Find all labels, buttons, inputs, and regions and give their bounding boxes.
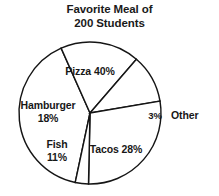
slice-label-hamburger: Hamburger 18%: [4, 99, 92, 124]
slice-label-fish: Fish 11%: [35, 138, 79, 163]
slice-label-hamburger-percent: 18%: [4, 112, 92, 125]
slice-label-pizza: Pizza 40%: [0, 65, 180, 78]
pie-slices: [0, 0, 219, 196]
slice-label-other-name: Other: [171, 109, 199, 122]
slice-label-tacos: Tacos 28%: [82, 143, 150, 156]
pie-chart-figure: Favorite Meal of 200 Students Pizza 40% …: [0, 0, 219, 196]
slice-label-fish-percent: 11%: [35, 151, 79, 164]
slice-label-hamburger-name: Hamburger: [4, 99, 92, 112]
slice-label-tacos-text: Tacos 28%: [90, 143, 143, 155]
slice-label-other-percent: 3%: [144, 110, 166, 123]
slice-label-fish-name: Fish: [35, 138, 79, 151]
slice-label-pizza-text: Pizza 40%: [65, 65, 114, 77]
